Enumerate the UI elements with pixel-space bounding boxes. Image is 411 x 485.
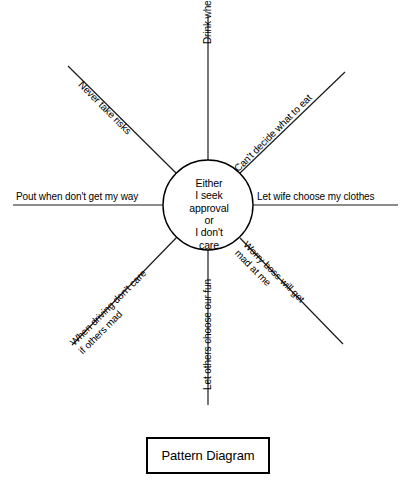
center-text-line-6: care bbox=[199, 239, 219, 251]
spoke-label-right-line-1: Let wife choose my clothes bbox=[257, 191, 374, 203]
spoke-label-top-line-1: Drink when feel criticized bbox=[202, 0, 214, 44]
spoke-label-bottom-line-1: Let others choose our fun bbox=[202, 260, 214, 390]
pattern-diagram-page: Either I seek approval or I don't care P… bbox=[0, 0, 411, 485]
caption-box: Pattern Diagram bbox=[146, 437, 270, 474]
spoke-label-right: Let wife choose my clothes bbox=[257, 191, 374, 203]
center-text-line-3: approval bbox=[189, 202, 228, 214]
spoke-label-bottom: Let others choose our fun bbox=[202, 260, 214, 390]
center-text-line-4: or bbox=[204, 214, 213, 226]
spoke-label-left: Pout when don't get my way bbox=[16, 191, 138, 203]
caption-label: Pattern Diagram bbox=[161, 448, 254, 463]
center-text-line-5: I don't bbox=[195, 226, 223, 238]
spoke-label-left-line-1: Pout when don't get my way bbox=[16, 191, 138, 203]
center-text-line-1: Either bbox=[196, 177, 223, 189]
spoke-label-top: Drink when feel criticized bbox=[202, 0, 214, 44]
center-text-line-2: I seek bbox=[195, 189, 222, 201]
